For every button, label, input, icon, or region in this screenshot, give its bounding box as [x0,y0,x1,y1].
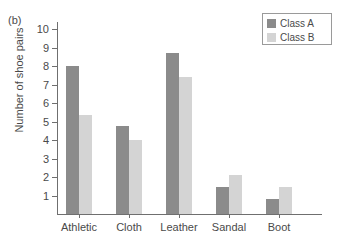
x-tick-label: Cloth [116,221,142,233]
bar [279,187,292,214]
legend-swatch-icon [267,33,276,42]
y-tick-mark [52,103,57,104]
figure: (b) Number of shoe pairs 12345678910 Ath… [0,0,343,250]
y-tick-mark [52,48,57,49]
bar [179,77,192,214]
x-tick-label: Sandal [212,221,246,233]
y-tick-label: 10 [37,23,49,35]
y-axis-title: Number of shoe pairs [13,0,25,160]
bar [66,66,79,214]
legend-item[interactable]: Class B [267,31,331,44]
bar [116,126,129,214]
y-tick-label: 9 [43,42,49,54]
y-tick-label: 7 [43,79,49,91]
y-tick-mark [52,196,57,197]
bar [216,187,229,214]
y-axis-line [57,22,58,214]
x-tick-label: Athletic [61,221,97,233]
y-tick-label: 6 [43,97,49,109]
y-tick-label: 4 [43,134,49,146]
y-tick-mark [52,66,57,67]
bar [79,115,92,214]
bar [266,199,279,214]
y-tick-label: 8 [43,60,49,72]
y-tick-mark [52,140,57,141]
bar [229,175,242,214]
x-tick-mark [129,214,130,218]
x-tick-label: Leather [160,221,197,233]
legend-swatch-icon [267,19,276,28]
x-tick-mark [79,214,80,218]
y-tick-label: 3 [43,153,49,165]
legend: Class AClass B [262,13,332,45]
plot-area: 12345678910 AthleticClothLeatherSandalBo… [57,22,322,214]
y-tick-mark [52,159,57,160]
x-tick-mark [179,214,180,218]
y-tick-mark [52,85,57,86]
y-tick-mark [52,29,57,30]
x-tick-label: Boot [268,221,291,233]
legend-label: Class A [280,18,314,29]
legend-label: Class B [280,32,314,43]
x-tick-mark [279,214,280,218]
y-tick-label: 5 [43,116,49,128]
y-tick-label: 2 [43,171,49,183]
x-tick-mark [229,214,230,218]
y-tick-mark [52,177,57,178]
y-tick-mark [52,122,57,123]
x-axis-line [57,214,322,215]
y-tick-label: 1 [43,190,49,202]
bar [166,53,179,214]
legend-item[interactable]: Class A [267,17,331,30]
bar [129,140,142,214]
